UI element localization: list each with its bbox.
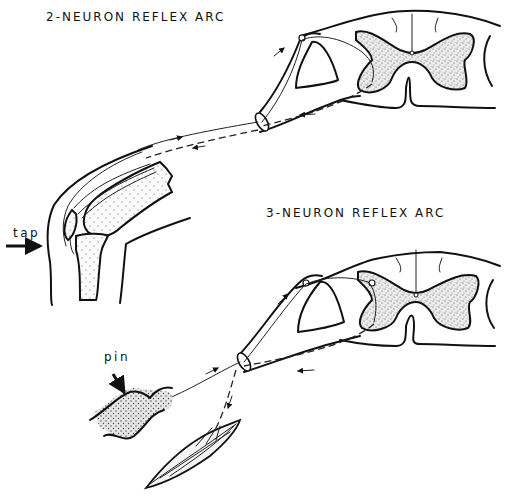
afferent-arrow-knee xyxy=(170,137,182,140)
title-two-neuron-reflex-arc: 2-NEURON REFLEX ARC xyxy=(46,10,225,24)
tibia xyxy=(76,234,108,300)
afferent-arrow-bottom xyxy=(278,294,288,304)
two-neuron-reflex-diagram xyxy=(6,11,500,305)
femur xyxy=(84,162,172,236)
dorsal-root-loop-bottom xyxy=(298,282,344,332)
skin-patch xyxy=(94,388,173,439)
reflex-arc-figure xyxy=(0,0,511,498)
efferent-arrow-muscle xyxy=(228,396,232,408)
grey-matter-top xyxy=(356,31,474,92)
title-three-neuron-reflex-arc: 3-NEURON REFLEX ARC xyxy=(266,206,445,220)
afferent-arrow-skin xyxy=(206,368,218,374)
efferent-arrow-top xyxy=(300,114,315,115)
tap-label: tap xyxy=(13,226,40,240)
afferent-arrow-top xyxy=(274,48,284,56)
patella xyxy=(65,210,77,240)
pin-arrow xyxy=(113,374,124,392)
dorsal-root-loop-top xyxy=(296,42,338,88)
pin-label: pin xyxy=(104,350,130,364)
efferent-arrow-knee xyxy=(193,146,205,148)
interneuron xyxy=(369,280,375,286)
efferent-arrow-bottom xyxy=(298,370,314,371)
efferent-fiber-top xyxy=(262,84,372,126)
three-neuron-reflex-diagram xyxy=(90,250,500,488)
spinal-nerve-top xyxy=(260,33,360,132)
